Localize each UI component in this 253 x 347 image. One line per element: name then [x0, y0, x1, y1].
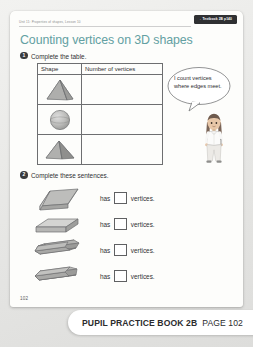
sphere-icon: [40, 107, 80, 133]
textbook-badge-label: Textbook 2B p140: [202, 17, 232, 21]
page-title: Counting vertices on 3D shapes: [20, 33, 193, 47]
speech-bubble: I count vertices where edges meet.: [166, 66, 234, 112]
column-header-number-of-vertices: Number of vertices: [82, 64, 163, 75]
sentence-has-label: has: [100, 221, 110, 228]
sentence-has-label: has: [100, 195, 110, 202]
hexagonal-prism-icon: [26, 237, 88, 263]
question-1-instruction: Complete the table.: [31, 53, 86, 60]
sentence-vertices-label: vertices.: [131, 273, 155, 280]
sentence-vertices-label: vertices.: [131, 247, 155, 254]
sentence-list: has vertices. has vertices.: [26, 185, 226, 289]
triangular-prism-icon: [26, 185, 88, 211]
table-answer-cell[interactable]: [82, 75, 163, 105]
sentence-row: has vertices.: [26, 263, 226, 289]
table-row: [38, 135, 163, 165]
sentence-vertices-label: vertices.: [131, 195, 155, 202]
sentence-row: has vertices.: [26, 237, 226, 263]
answer-box[interactable]: [114, 218, 128, 230]
table-shape-cell: [38, 135, 82, 165]
sentence-has-label: has: [100, 273, 110, 280]
question-2-instruction: Complete these sentences.: [31, 172, 108, 179]
speech-bubble-text: I count vertices where edges meet.: [174, 74, 226, 90]
cuboid-icon: [26, 211, 88, 237]
sentence-vertices-label: vertices.: [131, 221, 155, 228]
sentence-row: has vertices.: [26, 211, 226, 237]
table-header-row: Shape Number of vertices: [38, 64, 163, 75]
square-pyramid-icon: [40, 137, 80, 163]
sentence-has-label: has: [100, 247, 110, 254]
textbook-reference-badge[interactable]: → Textbook 2B p140: [194, 15, 237, 24]
bottom-banner: PUPIL PRACTICE BOOK 2B PAGE 102: [68, 310, 253, 335]
table-answer-cell[interactable]: [82, 105, 163, 135]
arrow-right-icon: →: [198, 18, 201, 21]
sentence-row: has vertices.: [26, 185, 226, 211]
column-header-shape: Shape: [38, 64, 82, 75]
table-shape-cell: [38, 105, 82, 135]
table-answer-cell[interactable]: [82, 135, 163, 165]
question-1-marker: 1: [20, 52, 28, 60]
girl-character-icon: [197, 108, 231, 166]
workbook-page: Unit 11: Properties of shapes, Lesson 10…: [10, 11, 243, 307]
question-2-marker: 2: [20, 171, 28, 179]
pentagonal-prism-icon: [26, 263, 88, 289]
table-row: [38, 75, 163, 105]
table-shape-cell: [38, 75, 82, 105]
triangular-pyramid-icon: [40, 77, 80, 103]
answer-box[interactable]: [114, 192, 128, 204]
page-folio: 102: [20, 296, 28, 301]
banner-page-label: PAGE 102: [202, 318, 243, 328]
header-divider: [19, 26, 191, 27]
table-row: [38, 105, 163, 135]
answer-box[interactable]: [114, 270, 128, 282]
answer-box[interactable]: [114, 244, 128, 256]
banner-book-label: PUPIL PRACTICE BOOK 2B: [82, 318, 197, 328]
vertices-table: Shape Number of vertices: [37, 63, 163, 165]
running-head: Unit 11: Properties of shapes, Lesson 10: [19, 20, 81, 24]
